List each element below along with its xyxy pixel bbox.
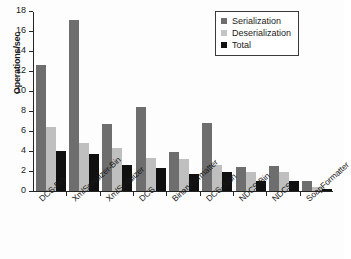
y-axis-tick-label: 2 <box>21 165 26 176</box>
y-axis-tick-label: 16 <box>16 25 26 36</box>
x-axis-tick <box>200 192 201 196</box>
legend-label: Deserialization <box>232 28 291 39</box>
bar-group <box>169 12 199 191</box>
x-axis-tick <box>233 192 234 196</box>
y-axis-tick: 0 <box>29 191 33 192</box>
y-axis-tick: 8 <box>29 111 33 112</box>
y-axis-tick: 18 <box>29 11 33 12</box>
bar <box>69 20 79 192</box>
bar-group <box>36 12 66 191</box>
legend-item: Total <box>221 39 291 51</box>
x-axis-tick <box>300 192 301 196</box>
x-axis-tick <box>266 192 267 196</box>
x-axis-tick <box>66 192 67 196</box>
y-axis-tick-label: 0 <box>21 185 26 196</box>
y-axis-tick: 10 <box>29 91 33 92</box>
y-axis-tick-label: 10 <box>16 85 26 96</box>
legend-item: Deserialization <box>221 27 291 39</box>
bar-group <box>69 12 99 191</box>
legend-label: Serialization <box>232 16 281 27</box>
y-axis-tick-label: 6 <box>21 125 26 136</box>
y-axis-tick: 6 <box>29 131 33 132</box>
bar <box>202 123 212 192</box>
y-axis-tick-label: 14 <box>16 45 26 56</box>
bar <box>169 152 179 192</box>
y-axis-tick: 2 <box>29 171 33 172</box>
y-axis-tick-label: 4 <box>21 145 26 156</box>
y-axis-line <box>33 12 34 192</box>
y-axis-tick: 12 <box>29 71 33 72</box>
y-axis-tick: 16 <box>29 31 33 32</box>
bar-group <box>302 12 332 191</box>
x-axis-tick <box>166 192 167 196</box>
y-axis-tick-label: 8 <box>21 105 26 116</box>
legend-swatch-icon <box>221 30 227 36</box>
legend-swatch-icon <box>221 42 227 48</box>
bar <box>102 124 112 192</box>
bar <box>156 168 166 192</box>
legend-swatch-icon <box>221 18 227 24</box>
x-axis-tick <box>100 192 101 196</box>
y-axis-tick: 4 <box>29 151 33 152</box>
chart-legend: SerializationDeserializationTotal <box>215 11 299 56</box>
legend-label: Total <box>232 40 251 51</box>
bar-group <box>136 12 166 191</box>
x-axis-tick <box>133 192 134 196</box>
y-axis-tick-label: 18 <box>16 5 26 16</box>
bar <box>36 65 46 191</box>
legend-item: Serialization <box>221 15 291 27</box>
y-axis-tick-label: 12 <box>16 65 26 76</box>
y-axis-tick: 14 <box>29 51 33 52</box>
